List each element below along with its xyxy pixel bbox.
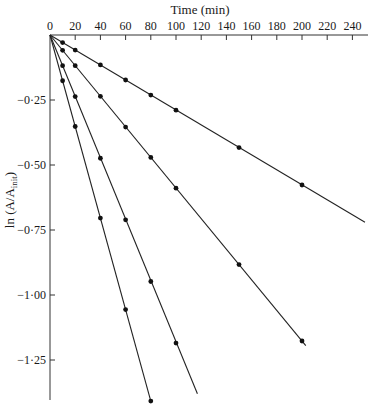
data-point [60, 63, 65, 68]
data-point [300, 339, 305, 344]
y-tick-label: −0·75 [17, 223, 46, 237]
fit-line [50, 35, 365, 222]
data-point [73, 48, 78, 53]
data-point [300, 183, 305, 188]
data-point [148, 279, 153, 284]
data-point [174, 186, 179, 191]
data-point [60, 48, 65, 53]
series-3 [50, 35, 197, 394]
series-1 [50, 35, 365, 222]
y-axis: −0·25−0·50−0·75−1·00−1·25 [17, 35, 55, 400]
data-point [98, 156, 103, 161]
y-tick-label: −0·50 [17, 158, 46, 172]
data-point [237, 145, 242, 150]
data-point [73, 63, 78, 68]
x-tick-label: 140 [217, 19, 235, 33]
data-point [148, 155, 153, 160]
x-axis-title: Time (min) [170, 2, 229, 17]
data-point [123, 125, 128, 130]
x-axis: 020406080100120140160180200220240 [47, 19, 368, 40]
fit-line [50, 35, 306, 346]
x-tick-label: 220 [318, 19, 336, 33]
data-point [98, 63, 103, 68]
data-point [98, 94, 103, 99]
x-tick-label: 0 [47, 19, 53, 33]
x-tick-label: 160 [243, 19, 261, 33]
y-tick-label: −1·25 [17, 353, 46, 367]
x-tick-label: 200 [293, 19, 311, 33]
y-axis-title: ln (A/Ainit) [2, 172, 19, 228]
data-point [148, 399, 153, 404]
kinetics-chart: Time (min) 02040608010012014016018020022… [0, 0, 376, 405]
x-tick-label: 240 [343, 19, 361, 33]
data-point [73, 94, 78, 99]
y-tick-label: −1·00 [17, 288, 46, 302]
data-point [123, 217, 128, 222]
data-point [174, 341, 179, 346]
x-tick-label: 120 [192, 19, 210, 33]
x-tick-label: 180 [268, 19, 286, 33]
x-tick-label: 40 [94, 19, 106, 33]
data-point [60, 78, 65, 83]
data-point [98, 216, 103, 221]
series-2 [50, 35, 306, 346]
data-point [60, 40, 65, 45]
y-tick-label: −0·25 [17, 93, 46, 107]
series-4 [50, 35, 153, 403]
fit-line [50, 35, 197, 394]
x-tick-label: 20 [69, 19, 81, 33]
x-tick-label: 100 [167, 19, 185, 33]
svg-text:ln (A/Ainit): ln (A/Ainit) [2, 172, 19, 228]
x-tick-label: 60 [120, 19, 132, 33]
data-point [123, 307, 128, 312]
data-point [148, 93, 153, 98]
data-point [174, 108, 179, 113]
series-layer [50, 35, 365, 403]
x-tick-label: 80 [145, 19, 157, 33]
data-point [73, 124, 78, 129]
data-point [237, 262, 242, 267]
data-point [123, 78, 128, 83]
